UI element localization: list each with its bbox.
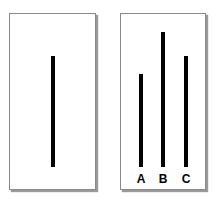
label-c: C bbox=[179, 173, 193, 185]
comparison-card: A B C bbox=[120, 13, 206, 190]
comparison-line-c bbox=[184, 56, 188, 167]
label-a: A bbox=[134, 173, 148, 185]
reference-line bbox=[51, 56, 55, 167]
comparison-line-b bbox=[161, 32, 165, 167]
label-b: B bbox=[156, 173, 170, 185]
comparison-line-a bbox=[139, 74, 143, 167]
reference-card bbox=[9, 13, 96, 190]
